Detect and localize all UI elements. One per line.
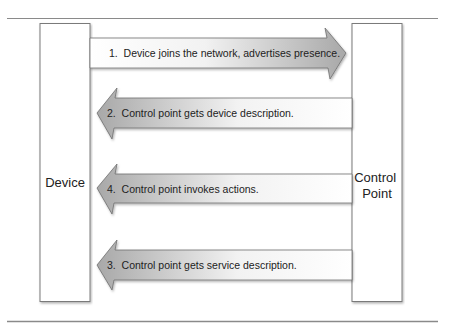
control-point-label-line1: Control [354, 170, 396, 185]
arrow-label-2: 2. Control point gets device description… [107, 107, 294, 119]
arrow-step-4: 4. Control point invokes actions. [97, 164, 352, 214]
arrow-label-3: 3. Control point gets service descriptio… [107, 259, 297, 271]
device-box [40, 24, 90, 302]
control-point-box [352, 24, 402, 302]
arrow-step-2: 2. Control point gets device description… [97, 88, 352, 139]
arrow-label-4: 4. Control point invokes actions. [107, 183, 259, 195]
control-point-label-line2: Point [362, 186, 392, 201]
arrow-step-3: 3. Control point gets service descriptio… [97, 240, 352, 290]
arrow-step-1: 1. Device joins the network, advertises … [90, 28, 346, 79]
upnp-sequence-diagram: Device Control Point 1. Device joins the… [0, 0, 453, 327]
arrow-label-1: 1. Device joins the network, advertises … [109, 47, 340, 59]
device-label: Device [45, 175, 85, 190]
